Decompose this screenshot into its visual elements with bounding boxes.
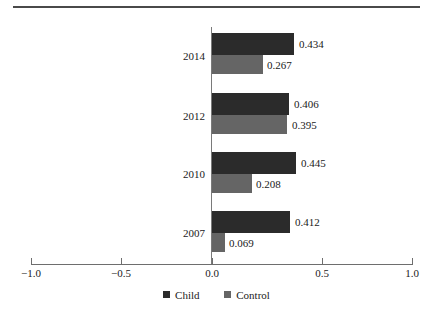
- x-axis-tick-label-4: 1.0: [392, 267, 432, 280]
- legend-label-control: Control: [236, 289, 270, 302]
- x-axis-tick-1: [121, 258, 122, 265]
- x-axis-tick-label-1: −0.5: [101, 267, 141, 280]
- x-axis-tick-label-2: 0.0: [192, 267, 232, 280]
- bar-control-2007: [212, 233, 225, 252]
- bar-child-2010: [212, 152, 296, 174]
- x-axis-tick-3: [322, 258, 323, 265]
- x-axis-tick-2: [212, 258, 213, 265]
- bar-value-control-2012: 0.395: [292, 119, 317, 131]
- legend-swatch-child-icon: [163, 291, 170, 298]
- bar-value-control-2010: 0.208: [256, 178, 281, 190]
- bar-child-2007: [212, 211, 290, 233]
- legend-item-child: Child: [163, 289, 199, 302]
- bar-control-2014: [212, 55, 263, 74]
- legend-swatch-control-icon: [224, 291, 231, 298]
- bar-child-2012: [212, 93, 289, 115]
- chart-legend: Child Control: [0, 289, 433, 302]
- legend-label-child: Child: [175, 289, 199, 302]
- x-axis-tick-4: [412, 258, 413, 265]
- chart-figure: −1.0 −0.5 0.0 0.5 1.0 2014 0.434 0.267 2…: [0, 0, 433, 315]
- category-label-2014: 2014: [157, 50, 205, 62]
- bar-value-child-2010: 0.445: [301, 157, 326, 169]
- legend-item-control: Control: [224, 289, 270, 302]
- x-axis-line: [31, 264, 413, 265]
- bar-value-child-2012: 0.406: [294, 98, 319, 110]
- plot-area: −1.0 −0.5 0.0 0.5 1.0 2014 0.434 0.267 2…: [0, 0, 433, 315]
- bar-control-2010: [212, 174, 252, 193]
- bar-child-2014: [212, 33, 294, 55]
- bar-control-2012: [212, 115, 287, 134]
- bar-value-child-2007: 0.412: [295, 216, 320, 228]
- category-label-2010: 2010: [157, 168, 205, 180]
- x-axis-tick-label-0: −1.0: [11, 267, 51, 280]
- x-axis-tick-0: [31, 258, 32, 265]
- category-label-2012: 2012: [157, 110, 205, 122]
- x-axis-tick-label-3: 0.5: [302, 267, 342, 280]
- bar-value-control-2007: 0.069: [229, 237, 254, 249]
- category-label-2007: 2007: [157, 227, 205, 239]
- bar-value-child-2014: 0.434: [299, 38, 324, 50]
- bar-value-control-2014: 0.267: [267, 59, 292, 71]
